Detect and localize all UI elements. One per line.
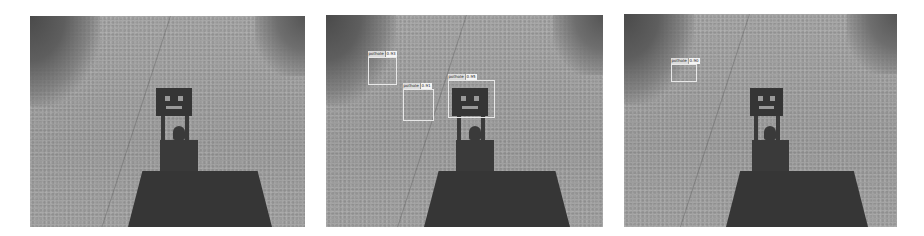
detection-box: pothole 0.95: [448, 80, 495, 118]
sign-eye-right: [770, 96, 775, 101]
vehicle-shadow: [424, 171, 570, 227]
detection-label: pothole 0.90: [671, 58, 700, 64]
detection-class: pothole: [671, 58, 688, 64]
detection-box: pothole 0.90: [671, 64, 697, 82]
detection-class: pothole: [368, 51, 385, 57]
detection-class: pothole: [448, 74, 465, 80]
detection-class: pothole: [403, 83, 420, 89]
roadside-vegetation-right: [255, 16, 305, 76]
image-panel-detections-multi: pothole 0.93 pothole 0.91 pothole 0.95: [326, 15, 603, 227]
roadside-vegetation-left: [30, 16, 100, 106]
sign-mouth: [166, 106, 182, 109]
vehicle-shadow: [128, 171, 272, 227]
vehicle-shadow: [726, 171, 868, 227]
detection-score: 0.91: [421, 83, 432, 89]
person-shadow-head: [173, 126, 185, 140]
sign-shadow: [750, 88, 783, 116]
image-panel-original: [30, 16, 305, 227]
person-shadow-head: [469, 126, 481, 140]
roadside-vegetation-right: [553, 15, 603, 75]
detection-label: pothole 0.95: [448, 74, 477, 80]
detection-score: 0.95: [466, 74, 477, 80]
person-shadow-body: [160, 140, 198, 174]
person-shadow-body: [456, 140, 494, 174]
detection-label: pothole 0.91: [403, 83, 432, 89]
sign-shadow: [156, 88, 192, 116]
sign-eye-left: [165, 96, 170, 101]
roadside-vegetation-right: [847, 14, 897, 74]
person-shadow-body: [752, 140, 789, 174]
detection-box: pothole 0.93: [368, 57, 397, 85]
detection-score: 0.93: [386, 51, 397, 57]
detection-label: pothole 0.93: [368, 51, 397, 57]
sign-eye-left: [758, 96, 763, 101]
image-panel-detections-single: pothole 0.90: [624, 14, 897, 227]
sign-eye-right: [178, 96, 183, 101]
detection-score: 0.90: [689, 58, 700, 64]
detection-box: pothole 0.91: [403, 89, 434, 121]
sign-mouth: [759, 106, 774, 109]
person-shadow-head: [764, 126, 776, 140]
